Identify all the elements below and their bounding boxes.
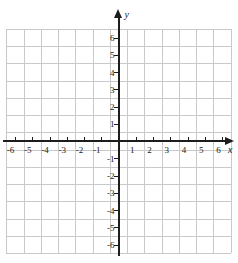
y-axis-tick-label: 2: [110, 103, 115, 112]
x-axis-tick-label: 2: [147, 146, 152, 155]
x-axis-tick-label: 4: [182, 146, 187, 155]
y-axis-tick-label: -3: [107, 189, 115, 198]
x-axis-tick-label: 5: [199, 146, 204, 155]
y-axis-line: [118, 17, 120, 256]
y-axis-tick-label: 6: [110, 34, 115, 43]
x-axis-tick-label: -6: [7, 146, 15, 155]
x-axis-tick-label: 6: [216, 146, 221, 155]
y-axis-tick-label: -2: [107, 172, 115, 181]
y-axis-tick-label: 4: [110, 68, 115, 77]
x-axis-line: [3, 140, 226, 142]
y-axis-tick-label: -5: [107, 223, 115, 232]
x-axis-tick-label: -2: [76, 146, 84, 155]
y-axis-label: y: [125, 10, 129, 20]
y-axis-tick-label: -1: [107, 154, 115, 163]
y-axis-tick-label: 1: [110, 120, 115, 129]
y-axis-arrow-icon: [114, 9, 122, 18]
x-axis-label: x: [228, 145, 232, 155]
y-axis-tick-label: -6: [107, 241, 115, 250]
x-axis-tick-label: 3: [165, 146, 170, 155]
y-axis-tick-label: 5: [110, 51, 115, 60]
y-axis-tick-label: 3: [110, 85, 115, 94]
x-axis-tick-label: -1: [93, 146, 101, 155]
x-axis-tick-label: 1: [130, 146, 135, 155]
coordinate-plane: -6-5-4-3-2-1123456654321-1-2-3-4-5-6 x y: [0, 0, 238, 263]
x-axis-tick-label: -3: [59, 146, 67, 155]
x-axis-tick-label: -5: [24, 146, 32, 155]
x-axis-tick-label: -4: [41, 146, 49, 155]
y-axis-tick-label: -4: [107, 206, 115, 215]
